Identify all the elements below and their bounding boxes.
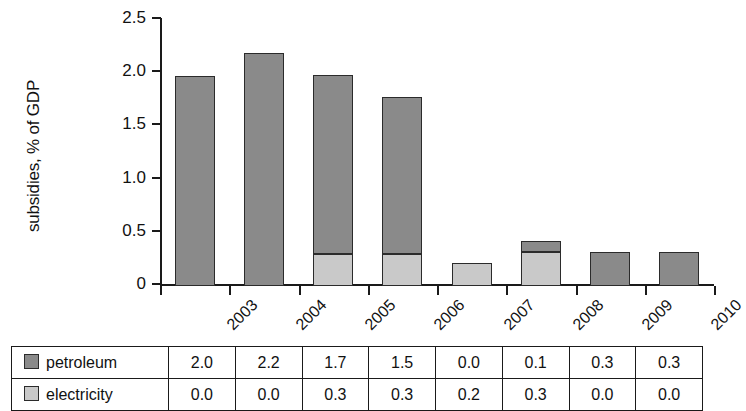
table-cell-petroleum: 0.0 <box>436 347 503 379</box>
x-axis-label: 2003 <box>223 296 261 334</box>
table-cell-petroleum: 1.5 <box>369 347 436 379</box>
y-axis-title: subsidies, % of GDP <box>24 36 44 276</box>
x-tick-mark <box>229 286 231 295</box>
table-row: electricity 0.00.00.30.30.20.30.00.0 <box>12 379 703 411</box>
x-tick-mark <box>576 286 578 295</box>
bar-group <box>244 53 284 286</box>
x-axis-label: 2005 <box>362 296 400 334</box>
legend-swatch-electricity-icon <box>24 386 39 401</box>
table-cell-electricity: 0.3 <box>502 379 569 411</box>
bar-segment-petroleum <box>313 75 353 254</box>
x-axis-label: 2007 <box>500 296 538 334</box>
bar-segment-petroleum <box>521 241 561 252</box>
table-cell-electricity: 0.3 <box>302 379 369 411</box>
bar-segment-electricity <box>521 252 561 286</box>
bar-group <box>313 75 353 286</box>
bar-group <box>382 97 422 286</box>
table-cell-petroleum: 0.3 <box>636 347 703 379</box>
legend-label-electricity: electricity <box>46 386 113 404</box>
bar-segment-electricity <box>452 263 492 286</box>
table-cell-electricity: 0.0 <box>169 379 236 411</box>
table-cell-electricity: 0.0 <box>235 379 302 411</box>
x-axis-label: 2006 <box>431 296 469 334</box>
bar-group <box>175 76 215 286</box>
bar-segment-electricity <box>313 254 353 286</box>
x-axis-label: 2010 <box>708 296 746 334</box>
x-axis-label: 2009 <box>639 296 677 334</box>
y-tick-label: 1.5 <box>88 115 146 132</box>
x-tick-mark <box>160 286 162 295</box>
table-cell-petroleum: 2.2 <box>235 347 302 379</box>
bar-segment-petroleum <box>590 252 630 286</box>
table-cell-electricity: 0.0 <box>636 379 703 411</box>
bar-group <box>659 252 699 286</box>
bar-segment-petroleum <box>175 76 215 286</box>
bar-series-container <box>160 18 714 286</box>
x-tick-mark <box>299 286 301 295</box>
y-tick-label: 0 <box>88 275 146 292</box>
y-tick-label: 2.0 <box>88 62 146 79</box>
data-table: petroleum 2.02.21.71.50.00.10.30.3 elect… <box>11 346 703 411</box>
x-tick-mark <box>506 286 508 295</box>
bar-segment-petroleum <box>659 252 699 286</box>
bar-group <box>590 252 630 286</box>
x-tick-mark <box>437 286 439 295</box>
y-tick-label: 2.5 <box>88 9 146 26</box>
bar-segment-petroleum <box>244 53 284 286</box>
x-axis-label: 2004 <box>292 296 330 334</box>
table-cell-electricity: 0.3 <box>369 379 436 411</box>
x-axis-label: 2008 <box>569 296 607 334</box>
legend-label-petroleum: petroleum <box>46 354 117 372</box>
table-row-header-petroleum: petroleum <box>12 347 169 379</box>
table-cell-electricity: 0.2 <box>436 379 503 411</box>
x-tick-mark <box>368 286 370 295</box>
bar-group <box>452 263 492 286</box>
table-cell-petroleum: 2.0 <box>169 347 236 379</box>
y-tick-label: 1.0 <box>88 169 146 186</box>
table-cell-petroleum: 0.1 <box>502 347 569 379</box>
bar-group <box>521 241 561 286</box>
x-tick-mark <box>645 286 647 295</box>
y-tick-label: 0.5 <box>88 222 146 239</box>
bar-segment-electricity <box>382 254 422 286</box>
table-cell-electricity: 0.0 <box>569 379 636 411</box>
chart-plot-area: subsidies, % of GDP 00.51.01.52.02.5 200… <box>0 0 714 340</box>
table-cell-petroleum: 0.3 <box>569 347 636 379</box>
bar-segment-petroleum <box>382 97 422 254</box>
table-row: petroleum 2.02.21.71.50.00.10.30.3 <box>12 347 703 379</box>
table-cell-petroleum: 1.7 <box>302 347 369 379</box>
table-row-header-electricity: electricity <box>12 379 169 411</box>
x-tick-mark <box>714 286 716 295</box>
legend-swatch-petroleum-icon <box>24 354 39 369</box>
